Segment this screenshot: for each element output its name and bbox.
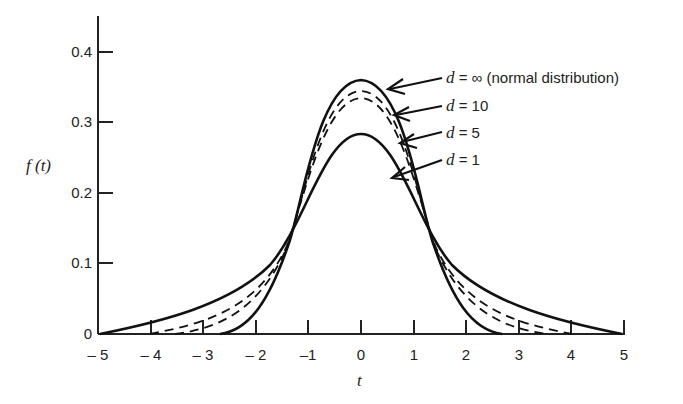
x-axis-label: t [357, 371, 363, 390]
x-tick--1: –1 [300, 346, 317, 363]
curve-d-10 [175, 91, 547, 334]
x-tick--2: – 2 [246, 346, 267, 363]
x-tick--3: – 3 [193, 346, 214, 363]
y-axis-label: f (t) [26, 156, 51, 175]
x-tick-3: 3 [515, 346, 523, 363]
x-tick--4: – 4 [141, 346, 162, 363]
x-tick-1: 1 [410, 346, 418, 363]
y-tick-labels: 0.4 0.3 0.2 0.1 0 [71, 43, 92, 342]
curve-d-1 [100, 134, 622, 334]
x-tick-5: 5 [620, 346, 628, 363]
x-tick-labels: – 5 – 4 – 3 – 2 –1 0 1 2 3 4 5 [88, 346, 629, 363]
x-tick-4: 4 [567, 346, 575, 363]
axes [98, 16, 625, 334]
legend-d-infinity: d = ∞ (normal distribution) [446, 68, 619, 87]
curves [100, 80, 622, 334]
x-tick--5: – 5 [88, 346, 109, 363]
legend-d-10: d = 10 [446, 96, 488, 115]
x-tick-0: 0 [357, 346, 365, 363]
y-tick-0.4: 0.4 [71, 43, 92, 60]
arrow-d-1 [394, 160, 442, 177]
legend-d-1: d = 1 [446, 150, 480, 169]
curve-d-infinity [220, 80, 502, 334]
t-distribution-chart: 0.4 0.3 0.2 0.1 0 – 5 – 4 – 3 – 2 –1 0 1… [0, 0, 683, 404]
legend-d-5: d = 5 [446, 123, 480, 142]
legend: d = ∞ (normal distribution) d = 10 d = 5… [446, 68, 619, 169]
y-tick-0.3: 0.3 [71, 113, 92, 130]
y-tick-0: 0 [84, 325, 92, 342]
y-tick-0.2: 0.2 [71, 184, 92, 201]
y-tick-0.1: 0.1 [71, 254, 92, 271]
x-tick-2: 2 [462, 346, 470, 363]
